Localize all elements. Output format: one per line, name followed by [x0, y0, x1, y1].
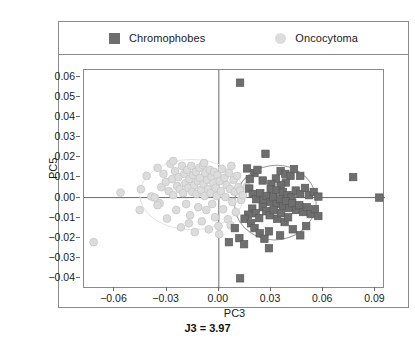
data-point: [232, 208, 240, 216]
y-tick-mark: [76, 136, 80, 137]
data-point: [143, 172, 151, 180]
data-point: [211, 213, 219, 221]
data-point: [229, 198, 237, 206]
data-point: [269, 193, 276, 200]
x-tick-label: 0.03: [260, 292, 280, 304]
data-point: [236, 275, 243, 282]
legend-item-chromophobes: Chromophobes: [109, 32, 205, 44]
series-chromophobes: [225, 79, 383, 282]
data-point: [259, 177, 266, 184]
x-tick-label: 0.06: [312, 292, 332, 304]
data-point: [303, 204, 310, 211]
x-tick-label: −0.03: [152, 292, 179, 304]
data-point: [265, 228, 272, 235]
y-tick-mark: [76, 176, 80, 177]
data-point: [262, 150, 269, 157]
square-marker-icon: [109, 33, 120, 44]
scatter-plot-canvas: [84, 70, 385, 289]
data-point: [289, 200, 296, 207]
data-point: [137, 185, 145, 193]
data-point: [256, 214, 263, 221]
y-tick-mark: [76, 217, 80, 218]
y-tick-mark: [76, 197, 80, 198]
data-point: [200, 159, 208, 167]
y-tick-mark: [76, 96, 80, 97]
data-point: [169, 157, 177, 165]
data-point: [185, 219, 193, 227]
x-tick-mark: [113, 287, 114, 291]
data-point: [296, 202, 303, 209]
data-point: [284, 214, 291, 221]
series-oncocytoma: [90, 157, 251, 246]
y-tick-label: −0.03: [48, 251, 75, 263]
data-point: [198, 217, 206, 225]
x-tick-mark: [374, 287, 375, 291]
data-point: [311, 206, 318, 213]
y-tick-label: −0.01: [48, 211, 75, 223]
data-point: [194, 203, 202, 211]
data-point: [315, 212, 322, 219]
data-point: [208, 200, 216, 208]
plot-panel: [83, 69, 384, 288]
data-point: [225, 238, 232, 245]
y-tick-mark: [76, 156, 80, 157]
data-point: [270, 206, 277, 213]
y-tick-mark: [76, 237, 80, 238]
y-tick-label: 0.00: [55, 191, 75, 203]
data-point: [301, 184, 308, 191]
x-axis-label: PC3: [59, 307, 410, 319]
data-point: [215, 230, 223, 238]
data-point: [246, 175, 253, 182]
data-point: [349, 173, 356, 180]
data-point: [225, 169, 233, 177]
data-point: [277, 210, 284, 217]
x-tick-label: 0.09: [364, 292, 384, 304]
y-tick-label: 0.05: [55, 90, 75, 102]
x-tick-mark: [322, 287, 323, 291]
data-point: [236, 79, 243, 86]
y-tick-mark: [76, 116, 80, 117]
data-point: [227, 162, 235, 170]
data-point: [163, 215, 171, 223]
data-point: [289, 226, 296, 233]
data-point: [215, 222, 223, 230]
data-point: [136, 206, 144, 214]
figure-container: Chromophobes Oncocytoma −0.04−0.03−0.02−…: [0, 0, 415, 357]
y-tick-label: −0.02: [48, 231, 75, 243]
plot-outer-frame: Chromophobes Oncocytoma −0.04−0.03−0.02−…: [58, 21, 409, 308]
data-point: [177, 223, 185, 231]
x-tick-mark: [166, 287, 167, 291]
legend-item-oncocytoma: Oncocytoma: [275, 32, 358, 44]
data-point: [290, 165, 297, 172]
data-point: [191, 228, 199, 236]
y-tick-mark: [76, 76, 80, 77]
data-point: [302, 222, 309, 229]
data-point: [205, 225, 213, 233]
data-point: [117, 189, 125, 197]
figure-caption: J3 = 3.97: [0, 322, 415, 334]
data-point: [276, 232, 283, 239]
data-point: [376, 194, 383, 201]
data-point: [169, 191, 177, 199]
data-point: [160, 170, 168, 178]
y-tick-label: −0.04: [48, 271, 75, 283]
y-axis-label: PC5: [47, 158, 59, 179]
data-point: [186, 211, 194, 219]
x-tick-mark: [218, 287, 219, 291]
data-point: [265, 245, 272, 252]
y-tick-mark: [76, 277, 80, 278]
data-point: [243, 165, 250, 172]
data-point: [261, 235, 268, 242]
data-point: [219, 205, 227, 213]
data-point: [315, 193, 322, 200]
data-point: [297, 232, 304, 239]
legend-label-oncocytoma: Oncocytoma: [295, 32, 358, 44]
data-point: [154, 201, 162, 209]
legend-label-chromophobes: Chromophobes: [129, 32, 205, 44]
circle-marker-icon: [275, 33, 286, 44]
data-point: [240, 240, 247, 247]
data-point: [154, 164, 162, 172]
x-tick-label: 0.00: [208, 292, 228, 304]
chart-legend: Chromophobes Oncocytoma: [59, 22, 408, 55]
data-point: [254, 166, 261, 173]
